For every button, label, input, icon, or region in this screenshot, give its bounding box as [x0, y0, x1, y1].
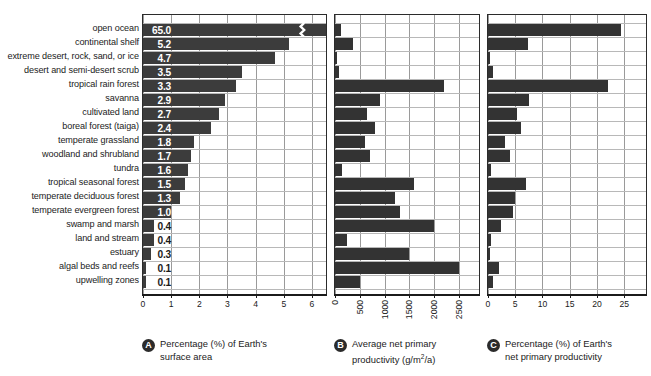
- category-label: cultivated land: [0, 106, 142, 120]
- bar-row: [335, 93, 479, 107]
- bar-row: [488, 205, 646, 219]
- bar-row: [488, 37, 646, 51]
- caption-b-line1: Average net primary: [352, 338, 436, 349]
- bar-row: [335, 247, 479, 261]
- panel-b-net-primary-productivity: [334, 14, 480, 295]
- caption-a: A Percentage (%) of Earth's surface area: [142, 338, 322, 363]
- bar-row: 1.5: [143, 177, 326, 191]
- caption-a-text: Percentage (%) of Earth's surface area: [160, 338, 267, 363]
- tick-mark: [227, 294, 228, 298]
- category-label: boreal forest (taiga): [0, 120, 142, 134]
- tick-label: 5: [281, 299, 286, 309]
- bar-row: [488, 163, 646, 177]
- bar-value-label: 1.3: [143, 191, 173, 205]
- category-label: temperate evergreen forest: [0, 204, 142, 218]
- bar-row: [335, 275, 479, 289]
- bar: [335, 66, 339, 78]
- tick-mark: [459, 294, 460, 298]
- bar: [488, 220, 501, 232]
- tick-label: 1000: [380, 300, 390, 319]
- tick-mark: [624, 294, 625, 298]
- gridline-horizontal: [488, 289, 646, 290]
- bar: [488, 150, 510, 162]
- bar-row: [335, 37, 479, 51]
- category-label: tundra: [0, 162, 142, 176]
- tick-label: 2000: [429, 300, 439, 319]
- category-label-column: open oceancontinental shelfextreme deser…: [0, 22, 142, 288]
- bar-value-label: 3.5: [143, 65, 173, 79]
- bar: [488, 206, 513, 218]
- category-label: savanna: [0, 92, 142, 106]
- bar-value-label: 3.3: [143, 79, 173, 93]
- bar: [335, 136, 365, 148]
- bar-row: [488, 121, 646, 135]
- tick-mark: [335, 294, 336, 298]
- tick-mark: [199, 294, 200, 298]
- bar-value-label: 0.4: [143, 219, 173, 233]
- bar-row: [335, 23, 479, 37]
- tick-label: 2: [197, 299, 202, 309]
- category-label: open ocean: [0, 22, 142, 36]
- bar: [335, 234, 347, 246]
- bar-row: [488, 177, 646, 191]
- bar-value-label: 2.4: [143, 121, 173, 135]
- bar-row: [335, 51, 479, 65]
- category-label: temperate deciduous forest: [0, 190, 142, 204]
- panel-a-axis-line: [142, 294, 327, 296]
- tick-label: 10: [538, 299, 548, 309]
- bar: [488, 122, 521, 134]
- bar: [488, 108, 517, 120]
- bar-row: [335, 149, 479, 163]
- bar-row: [335, 191, 479, 205]
- tick-label: 15: [565, 299, 575, 309]
- bar: [488, 52, 490, 64]
- tick-mark: [312, 294, 313, 298]
- bar-row: [488, 275, 646, 289]
- tick-label: 1: [169, 299, 174, 309]
- tick-mark: [171, 294, 172, 298]
- bar-value-label: 1.8: [143, 135, 173, 149]
- bar-row: [488, 219, 646, 233]
- bar-row: 1.7: [143, 149, 326, 163]
- bar-value-label: 1.6: [143, 163, 173, 177]
- bar-row: 1.3: [143, 191, 326, 205]
- caption-a-badge: A: [142, 339, 155, 352]
- bar-row: [335, 107, 479, 121]
- bar-row: [488, 247, 646, 261]
- bar-row: [488, 51, 646, 65]
- bar-row: 4.7: [143, 51, 326, 65]
- bar-row: 3.3: [143, 79, 326, 93]
- category-label: extreme desert, rock, sand, or ice: [0, 50, 142, 64]
- tick-label: 1500: [404, 300, 414, 319]
- gridline-horizontal: [143, 289, 326, 290]
- panel-b-bar-rows: [335, 23, 479, 289]
- bar-value-label: 1.7: [143, 149, 173, 163]
- tick-label: 500: [355, 300, 365, 314]
- bar-row: [335, 135, 479, 149]
- bar: [335, 276, 360, 288]
- bar: [335, 192, 395, 204]
- tick-label: 5: [513, 299, 518, 309]
- caption-a-line2: surface area: [160, 351, 212, 362]
- bar-row: 2.9: [143, 93, 326, 107]
- tick-label: 6: [310, 299, 315, 309]
- tick-mark: [409, 294, 410, 298]
- category-label: swamp and marsh: [0, 218, 142, 232]
- bar: [335, 206, 400, 218]
- bar-row: [335, 121, 479, 135]
- bar-row: [488, 261, 646, 275]
- caption-b-line2-pre: productivity (g/m: [352, 354, 421, 365]
- tick-mark: [488, 294, 489, 298]
- panel-a-surface-area: 65.05.24.73.53.32.92.72.41.81.71.61.51.3…: [142, 14, 327, 295]
- tick-mark: [385, 294, 386, 298]
- caption-b-text: Average net primary productivity (g/m2/a…: [352, 338, 436, 366]
- bar-row: [335, 205, 479, 219]
- bar-value-label: 4.7: [143, 51, 173, 65]
- tick-label: 20: [592, 299, 602, 309]
- panel-c-plot-area: [488, 15, 646, 295]
- bar-row: [335, 261, 479, 275]
- gridline-horizontal: [335, 289, 479, 290]
- bar-row: 1.6: [143, 163, 326, 177]
- bar-row: 5.2: [143, 37, 326, 51]
- caption-b-line2-post: /a): [424, 354, 435, 365]
